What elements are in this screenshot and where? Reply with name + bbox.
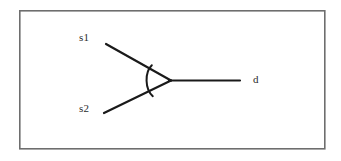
figure-canvas: s1 s2 d xyxy=(0,0,341,161)
node-label-s2: s2 xyxy=(79,103,89,114)
diagram-svg xyxy=(0,0,341,161)
node-label-d: d xyxy=(253,74,259,85)
edge-s1-to-vertex xyxy=(106,44,171,81)
edge-s2-to-vertex xyxy=(104,81,171,114)
node-label-s1: s1 xyxy=(79,32,89,43)
